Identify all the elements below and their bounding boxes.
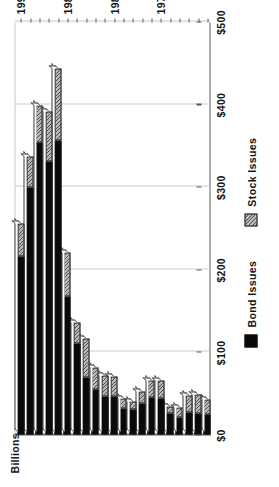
value-tick-mark bbox=[196, 186, 201, 187]
bar-right-face bbox=[189, 392, 199, 395]
plot-area bbox=[14, 22, 210, 435]
legend-item-stock-issues: Stock Issues bbox=[244, 137, 257, 226]
bar-right-face bbox=[49, 66, 59, 69]
bar-right-face bbox=[11, 221, 21, 224]
bar-segment-stock-1990[interactable] bbox=[17, 223, 24, 256]
bar-segment-stock-1970[interactable] bbox=[203, 399, 210, 414]
bar-segment-bond-1982[interactable] bbox=[91, 389, 98, 434]
category-tick-1972 bbox=[188, 18, 189, 22]
bar-top-face bbox=[14, 218, 17, 431]
bar-segment-bond-1981[interactable] bbox=[101, 396, 108, 434]
category-label-1985: 1985 bbox=[61, 0, 73, 14]
bar-segment-bond-1990[interactable] bbox=[17, 256, 24, 434]
category-tick-1987 bbox=[48, 18, 49, 22]
value-tick-mark bbox=[196, 351, 201, 352]
category-label-1975: 1975 bbox=[154, 0, 166, 14]
category-tick-1975 bbox=[160, 18, 161, 22]
bar-segment-bond-1988[interactable] bbox=[35, 142, 42, 434]
bar-segment-stock-1975[interactable] bbox=[157, 380, 164, 397]
category-tick-1977 bbox=[142, 18, 143, 22]
category-tick-1979 bbox=[123, 18, 124, 22]
category-tick-1985 bbox=[67, 18, 68, 22]
category-label-1990: 1990 bbox=[14, 0, 26, 14]
chart-legend: Bond Issues Stock Issues bbox=[244, 137, 257, 347]
bar-segment-stock-1977[interactable] bbox=[138, 391, 145, 403]
bar-segment-bond-1978[interactable] bbox=[129, 409, 136, 434]
legend-item-bond-issues: Bond Issues bbox=[244, 260, 257, 347]
value-tick-mark bbox=[196, 103, 201, 104]
chart-figure: Billions $0$100$200$300$400$500 19751980… bbox=[0, 0, 279, 487]
value-tick-label: $500 bbox=[214, 10, 226, 35]
category-tick-1978 bbox=[132, 18, 133, 22]
rotated-figure-wrapper: Billions $0$100$200$300$400$500 19751980… bbox=[0, 0, 279, 487]
bar-segment-bond-1976[interactable] bbox=[147, 397, 154, 434]
category-tick-1970 bbox=[207, 18, 208, 22]
bar-segment-stock-1982[interactable] bbox=[91, 367, 98, 389]
bar-segment-bond-1977[interactable] bbox=[138, 403, 145, 434]
bar-right-face bbox=[142, 378, 152, 381]
category-tick-1983 bbox=[86, 18, 87, 22]
value-axis-title: Billions bbox=[8, 433, 20, 473]
bar-segment-stock-1971[interactable] bbox=[194, 394, 201, 412]
bar-segment-bond-1979[interactable] bbox=[119, 408, 126, 434]
bar-segment-stock-1980[interactable] bbox=[110, 376, 117, 396]
bar-segment-stock-1979[interactable] bbox=[119, 399, 126, 409]
bar-segment-stock-1972[interactable] bbox=[185, 395, 192, 412]
bar-segment-bond-1983[interactable] bbox=[82, 377, 89, 434]
bars-container bbox=[14, 22, 209, 434]
category-tick-1974 bbox=[170, 18, 171, 22]
bar-segment-bond-1987[interactable] bbox=[45, 161, 52, 434]
bar-segment-stock-1986[interactable] bbox=[54, 68, 61, 140]
category-tick-1973 bbox=[179, 18, 180, 22]
legend-label-stock-issues: Stock Issues bbox=[245, 137, 257, 206]
bar-segment-stock-1985[interactable] bbox=[63, 252, 70, 296]
category-tick-1986 bbox=[58, 18, 59, 22]
stock-issues-swatch-icon bbox=[244, 213, 257, 226]
bar-segment-stock-1978[interactable] bbox=[129, 401, 136, 409]
category-label-1980: 1980 bbox=[108, 0, 120, 14]
bar-segment-bond-1974[interactable] bbox=[166, 413, 173, 434]
value-tick-label: $100 bbox=[214, 340, 226, 365]
bar-segment-stock-1974[interactable] bbox=[166, 406, 173, 413]
bar-segment-bond-1973[interactable] bbox=[175, 417, 182, 434]
legend-label-bond-issues: Bond Issues bbox=[245, 260, 257, 327]
category-tick-1990 bbox=[20, 18, 21, 22]
category-tick-1980 bbox=[114, 18, 115, 22]
value-tick-label: $200 bbox=[214, 258, 226, 283]
category-tick-1988 bbox=[39, 18, 40, 22]
bar-segment-bond-1984[interactable] bbox=[73, 343, 80, 434]
bar-segment-stock-1988[interactable] bbox=[35, 105, 42, 141]
bar-segment-stock-1973[interactable] bbox=[175, 407, 182, 417]
bar-right-face bbox=[179, 393, 189, 396]
bar-segment-bond-1972[interactable] bbox=[185, 412, 192, 434]
bar-right-face bbox=[21, 153, 31, 156]
value-tick-mark bbox=[196, 269, 201, 270]
value-tick-label: $400 bbox=[214, 92, 226, 117]
bar-segment-stock-1983[interactable] bbox=[82, 338, 89, 377]
bar-segment-bond-1975[interactable] bbox=[157, 398, 164, 434]
bar-segment-bond-1971[interactable] bbox=[194, 413, 201, 434]
bar-segment-stock-1976[interactable] bbox=[147, 380, 154, 397]
bar-segment-bond-1970[interactable] bbox=[203, 414, 210, 434]
value-tick-label: $300 bbox=[214, 175, 226, 200]
value-tick-mark bbox=[196, 434, 201, 435]
bar-segment-stock-1987[interactable] bbox=[45, 111, 52, 161]
bar-right-face bbox=[30, 103, 40, 106]
value-tick-label: $0 bbox=[214, 429, 226, 441]
category-tick-1989 bbox=[30, 18, 31, 22]
bond-issues-swatch-icon bbox=[244, 334, 257, 347]
category-tick-1976 bbox=[151, 18, 152, 22]
value-tick-mark bbox=[196, 21, 201, 22]
category-tick-1982 bbox=[95, 18, 96, 22]
bar-right-face bbox=[133, 388, 143, 391]
bar-segment-stock-1989[interactable] bbox=[26, 156, 33, 187]
bar-segment-bond-1989[interactable] bbox=[26, 187, 33, 434]
bar-segment-stock-1984[interactable] bbox=[73, 322, 80, 343]
bar-segment-bond-1985[interactable] bbox=[63, 296, 70, 434]
bar-segment-bond-1980[interactable] bbox=[110, 396, 117, 434]
bar-segment-stock-1981[interactable] bbox=[101, 375, 108, 396]
bar-segment-bond-1986[interactable] bbox=[54, 140, 61, 434]
category-tick-1981 bbox=[104, 18, 105, 22]
category-tick-1984 bbox=[76, 18, 77, 22]
